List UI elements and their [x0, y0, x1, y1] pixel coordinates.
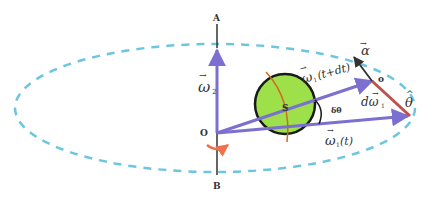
- precession-diagram: A B O S → ω 2 → ω 1 (t+dt) δθ → ω 1 (t) …: [0, 0, 429, 212]
- label-alpha: α: [361, 43, 370, 58]
- orbit-ellipse: [15, 44, 415, 172]
- label-o-right: o: [378, 74, 384, 84]
- label-theta-hat: θ: [405, 95, 413, 110]
- label-omega1-t-suffix: (t): [340, 135, 353, 148]
- alpha-vector: [354, 57, 372, 81]
- label-omega1-t: ω: [325, 133, 336, 148]
- label-b: B: [213, 181, 221, 191]
- label-sphere: S: [282, 103, 289, 113]
- label-origin: O: [200, 128, 208, 138]
- label-d-omega-sub: 1: [381, 102, 385, 109]
- label-d-omega: dω: [361, 95, 379, 109]
- label-omega1-tdt-suffix: (t+dt): [316, 61, 352, 82]
- label-omega2-sub: 2: [212, 88, 216, 96]
- label-omega2: ω: [198, 78, 210, 96]
- label-delta-theta: δθ: [331, 105, 342, 115]
- label-a: A: [212, 13, 221, 23]
